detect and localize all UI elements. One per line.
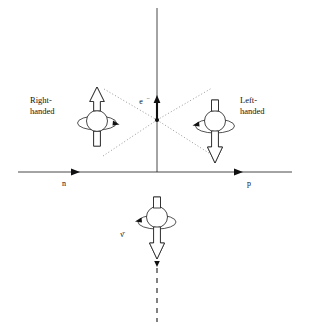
electron-charge-superscript: −	[147, 95, 151, 101]
antineutrino-track-arrowhead	[154, 261, 160, 267]
right-handed-label-line2: handed	[30, 106, 55, 116]
dotted-line-lower-left	[103, 120, 157, 156]
antineutrino-label: ν̄	[120, 230, 126, 239]
dotted-line-upper-right	[157, 88, 212, 120]
spin-arrow-tail-antineutrino	[154, 197, 161, 208]
spin-arrow-head-overlay-antineutrino	[150, 227, 165, 259]
antineutrino-track	[154, 261, 160, 322]
particle-body-antineutrino	[147, 207, 168, 228]
particle-right-handed: Right- handed	[30, 87, 120, 146]
horizontal-axis	[18, 169, 292, 176]
diagram-canvas: n p e − Right-	[0, 0, 310, 326]
axis-label-n: n	[62, 179, 66, 188]
particle-body-left-handed	[205, 111, 226, 132]
axis-label-p: p	[247, 179, 251, 188]
particle-body-right-handed	[87, 111, 108, 132]
electron-momentum-arrowhead	[154, 95, 161, 103]
left-handed-label-line2: handed	[240, 106, 265, 116]
axis-arrowhead-left	[71, 169, 80, 176]
axis-arrowhead-right	[234, 169, 243, 176]
spin-arrow-tail-left-handed	[212, 100, 219, 111]
left-handed-label-line1: Left-	[240, 95, 257, 105]
right-handed-label-line1: Right-	[30, 95, 52, 105]
electron-momentum-arrow	[154, 95, 161, 122]
beta-decay-diagram: n p e − Right-	[0, 0, 310, 326]
spin-ring-arrowhead-left-handed	[193, 122, 200, 127]
spin-arrow-head-overlay-right-handed	[90, 87, 104, 111]
vertex-dot	[155, 118, 159, 122]
dotted-line-lower-right	[157, 120, 212, 155]
particle-antineutrino: ν̄	[120, 197, 176, 259]
spin-arrow-tail-right-handed	[94, 131, 101, 146]
spin-ring-arrowhead-antineutrino	[135, 218, 142, 223]
electron-label: e	[139, 97, 143, 106]
electron-label-group: e −	[139, 95, 150, 107]
particle-left-handed: Left- handed	[193, 95, 266, 163]
spin-arrow-head-overlay-left-handed	[208, 131, 223, 163]
